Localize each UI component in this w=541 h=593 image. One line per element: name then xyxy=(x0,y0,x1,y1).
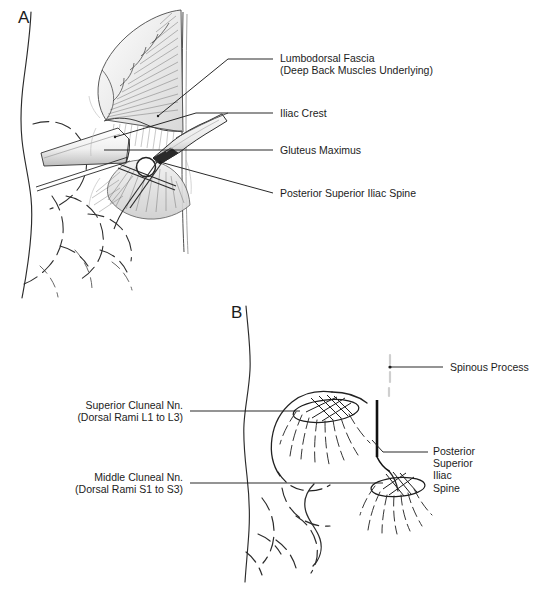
label-gluteus-maximus: Gluteus Maximus xyxy=(280,144,361,156)
label-posterior-superior-iliac-spine-b: Posterior Superior Iliac Spine xyxy=(433,445,475,494)
panel-letter-a: A xyxy=(18,8,30,28)
label-superior-cluneal-nerves: Superior Cluneal Nn. (Dorsal Rami L1 to … xyxy=(0,399,183,423)
leader-dots-b xyxy=(388,365,391,368)
panel-letter-b: B xyxy=(231,303,243,323)
label-iliac-crest: Iliac Crest xyxy=(280,107,327,119)
label-lumbodorsal-fascia: Lumbodorsal Fascia (Deep Back Muscles Un… xyxy=(280,52,433,76)
label-spinous-process: Spinous Process xyxy=(450,361,529,373)
anatomical-figure: A B Lumbodorsal Fascia (Deep Back Muscle… xyxy=(0,0,541,593)
label-posterior-superior-iliac-spine-a: Posterior Superior Iliac Spine xyxy=(280,187,416,199)
figure-artwork xyxy=(0,0,541,593)
label-middle-cluneal-nerves: Middle Cluneal Nn. (Dorsal Rami S1 to S3… xyxy=(0,471,183,495)
spinal-column-faint-marks xyxy=(389,355,390,396)
psis-marker xyxy=(137,158,156,177)
